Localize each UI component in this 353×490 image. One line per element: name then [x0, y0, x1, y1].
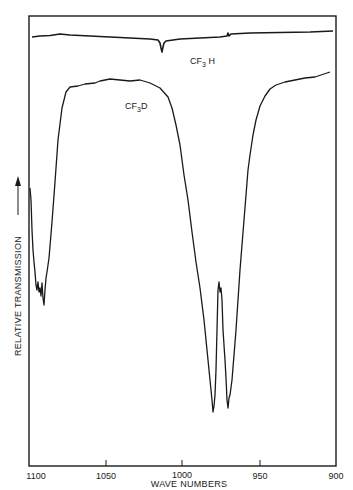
- up-arrow-icon: [15, 176, 21, 215]
- ir-spectrum-chart: 1100 1050 1000 950 900 WAVE NUMBERS RELA…: [0, 0, 353, 490]
- cf3d-label: CF3D: [125, 101, 148, 113]
- y-axis-label-group: RELATIVE TRANSMISSION: [13, 236, 23, 356]
- plot-frame: [29, 16, 336, 466]
- cf3h-label: CF3 H: [190, 56, 215, 68]
- x-axis-ticks: [106, 460, 260, 466]
- x-axis-label: WAVE NUMBERS: [151, 479, 228, 489]
- x-tick-950: 950: [252, 471, 267, 481]
- x-tick-900: 900: [328, 471, 343, 481]
- x-tick-1100: 1100: [26, 471, 45, 481]
- cf3d-trace: [30, 72, 330, 412]
- y-axis-label: RELATIVE TRANSMISSION: [13, 236, 23, 356]
- cf3h-trace: [32, 31, 333, 52]
- x-tick-1050: 1050: [96, 471, 116, 481]
